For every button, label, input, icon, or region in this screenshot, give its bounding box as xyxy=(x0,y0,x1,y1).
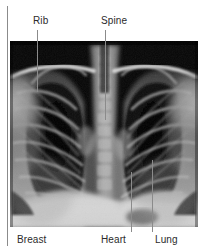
label-spine: Spine xyxy=(101,15,127,27)
label-rib: Rib xyxy=(33,15,48,27)
chest-xray-figure: Rib Spine Breast Heart Lung xyxy=(0,0,209,252)
label-lung: Lung xyxy=(155,234,178,246)
leader-line-heart xyxy=(131,172,132,232)
leader-line-spine xyxy=(105,30,106,120)
xray-graphic xyxy=(10,41,198,227)
label-breast: Breast xyxy=(17,234,47,246)
leader-line-rib xyxy=(37,30,38,92)
label-heart: Heart xyxy=(101,234,126,246)
leader-line-lung xyxy=(152,160,153,232)
leader-line-breast xyxy=(7,6,8,246)
xray-image xyxy=(10,41,198,227)
